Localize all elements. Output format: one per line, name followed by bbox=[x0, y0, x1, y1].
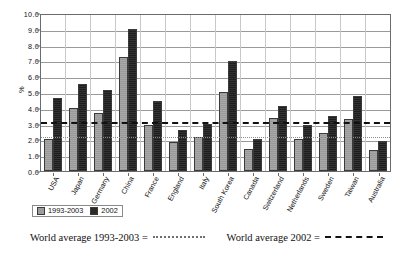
bar-group bbox=[366, 15, 390, 171]
legend-item[interactable]: 1993-2003 bbox=[37, 207, 83, 215]
y-axis-tick-label: 5.0 bbox=[11, 89, 39, 98]
x-axis-label-cell: Netherlands bbox=[291, 173, 316, 221]
legend-item[interactable]: 2002 bbox=[90, 207, 117, 215]
x-axis-tick-label: Italy bbox=[197, 175, 211, 191]
x-axis-tick-label: Japan bbox=[68, 175, 85, 197]
x-axis-tick-label: Taiwan bbox=[343, 175, 361, 199]
bar[interactable] bbox=[203, 124, 212, 171]
bar[interactable] bbox=[278, 106, 287, 171]
bar-group bbox=[241, 15, 266, 171]
bar[interactable] bbox=[178, 130, 187, 171]
x-axis-label-cell: France bbox=[140, 173, 165, 221]
bar[interactable] bbox=[53, 98, 62, 171]
bar[interactable] bbox=[194, 137, 203, 171]
footnote-left-label: World average 1993-2003 = bbox=[30, 232, 148, 243]
bar[interactable] bbox=[69, 108, 78, 171]
x-axis-label-cell: Australia bbox=[366, 173, 391, 221]
footnote-world-average-2002: World average 2002 = bbox=[227, 232, 383, 243]
bar-group bbox=[91, 15, 116, 171]
bar[interactable] bbox=[328, 116, 337, 171]
bar-group bbox=[316, 15, 341, 171]
x-axis-tick-label: England bbox=[166, 175, 186, 203]
legend-item-label: 2002 bbox=[101, 207, 117, 214]
dotted-line-sample-icon bbox=[153, 236, 205, 238]
y-axis-tick-label: 3.0 bbox=[11, 120, 39, 129]
bar[interactable] bbox=[219, 92, 228, 171]
bar-group bbox=[341, 15, 366, 171]
bar[interactable] bbox=[144, 125, 153, 171]
dashed-line-sample-icon bbox=[325, 236, 383, 238]
y-axis-tick-label: 10.0 bbox=[11, 10, 39, 19]
x-axis-tick-label: China bbox=[119, 175, 136, 196]
bar-group bbox=[291, 15, 316, 171]
x-axis-tick-label: Canada bbox=[241, 175, 261, 201]
plot-inner bbox=[41, 15, 390, 171]
reference-line-dotted bbox=[41, 137, 390, 138]
x-axis-label-cell: South Korea bbox=[216, 173, 241, 221]
x-axis-label-cell: Taiwan bbox=[341, 173, 366, 221]
chart-footnotes: World average 1993-2003 = World average … bbox=[0, 232, 407, 243]
x-axis-tick-label: Sweden bbox=[316, 175, 336, 202]
bar[interactable] bbox=[153, 101, 162, 171]
y-axis-tick-label: 7.0 bbox=[11, 57, 39, 66]
x-axis-label-cell: England bbox=[165, 173, 190, 221]
bar[interactable] bbox=[344, 119, 353, 171]
bar[interactable] bbox=[78, 84, 87, 171]
y-axis-tick-label: 1.0 bbox=[11, 152, 39, 161]
x-axis-tick-label: USA bbox=[46, 175, 61, 192]
y-axis-tick-label: 0.0 bbox=[11, 168, 39, 177]
bar[interactable] bbox=[228, 61, 237, 171]
y-axis-tick-label: 8.0 bbox=[11, 41, 39, 50]
x-axis-label-cell: Switzerland bbox=[266, 173, 291, 221]
bar[interactable] bbox=[44, 139, 53, 171]
legend-swatch-icon bbox=[90, 207, 98, 215]
bar-group bbox=[141, 15, 166, 171]
bar-group bbox=[216, 15, 241, 171]
y-axis-tick-label: 6.0 bbox=[11, 73, 39, 82]
bar[interactable] bbox=[294, 139, 303, 171]
y-axis-tick-label: 2.0 bbox=[11, 136, 39, 145]
bar-group bbox=[191, 15, 216, 171]
bar[interactable] bbox=[319, 133, 328, 171]
bar[interactable] bbox=[303, 125, 312, 171]
bar[interactable] bbox=[269, 118, 278, 171]
y-axis-tick-label: 9.0 bbox=[11, 25, 39, 34]
bar-group bbox=[66, 15, 91, 171]
bar[interactable] bbox=[128, 29, 137, 171]
bar-group bbox=[166, 15, 191, 171]
x-axis-tick-label: Germany bbox=[89, 175, 111, 205]
bar[interactable] bbox=[169, 142, 178, 171]
bar-group bbox=[266, 15, 291, 171]
footnote-world-average-1993-2003: World average 1993-2003 = bbox=[30, 232, 205, 243]
bar-group bbox=[116, 15, 141, 171]
y-axis-tick-label: 4.0 bbox=[11, 104, 39, 113]
plot-area bbox=[40, 14, 391, 172]
legend-item-label: 1993-2003 bbox=[48, 207, 83, 214]
x-axis-label-cell: Italy bbox=[190, 173, 215, 221]
bar[interactable] bbox=[103, 90, 112, 171]
bar[interactable] bbox=[369, 150, 378, 171]
x-axis-label-cell: Sweden bbox=[316, 173, 341, 221]
x-axis-label-cell: Canada bbox=[241, 173, 266, 221]
legend-swatch-icon bbox=[37, 207, 45, 215]
bar[interactable] bbox=[378, 141, 387, 171]
bar[interactable] bbox=[119, 57, 128, 171]
x-axis-tick-label: Australia bbox=[365, 175, 386, 204]
bar[interactable] bbox=[353, 96, 362, 171]
footnote-right-label: World average 2002 = bbox=[227, 232, 320, 243]
bar[interactable] bbox=[244, 149, 253, 171]
bar[interactable] bbox=[253, 139, 262, 171]
bar-group bbox=[41, 15, 66, 171]
bar-groups bbox=[41, 15, 390, 171]
reference-line-dashed bbox=[41, 122, 390, 124]
chart-legend: 1993-20032002 bbox=[32, 205, 123, 217]
chart-root: % 10.09.08.07.06.05.04.03.02.01.00.0 USA… bbox=[0, 0, 407, 261]
x-axis-tick-label: France bbox=[142, 175, 160, 199]
